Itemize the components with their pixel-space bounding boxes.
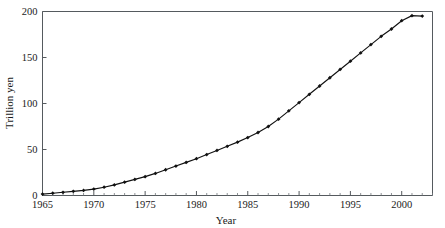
data-point [61,190,65,194]
data-point [143,175,147,179]
x-tick-label: 1975 [135,199,156,210]
y-axis-tick-labels: 050100150200 [22,6,38,201]
y-tick-label: 50 [27,144,38,155]
y-axis-ticks [43,12,47,196]
x-tick-label: 1990 [289,199,310,210]
data-point [153,172,157,176]
data-point [246,136,250,140]
data-point [420,14,424,18]
x-axis-tick-labels: 19651970197519801985199019952000 [32,199,412,210]
x-tick-label: 1980 [186,199,207,210]
x-axis-title: Year [216,214,237,226]
data-point [205,153,209,157]
data-point [123,180,127,184]
x-tick-label: 2000 [391,199,412,210]
data-point [164,168,168,172]
data-point [92,187,96,191]
x-axis-ticks [43,191,402,196]
data-point [71,189,75,193]
data-point [184,160,188,164]
data-point-markers [41,14,425,196]
x-tick-label: 1995 [340,199,361,210]
data-point [410,14,414,18]
x-tick-label: 1970 [83,199,104,210]
data-point [236,140,240,144]
data-point [195,157,199,161]
data-point [133,178,137,182]
x-tick-label: 1965 [32,199,53,210]
line-chart: 050100150200 196519701975198019851990199… [0,0,445,228]
y-tick-label: 100 [22,98,38,109]
data-point [102,185,106,189]
y-tick-label: 200 [22,6,38,17]
data-point [51,191,55,195]
data-point [225,144,229,148]
data-series [41,14,425,196]
x-tick-label: 1985 [237,199,258,210]
y-tick-label: 150 [22,52,38,63]
y-axis-title: Trillion yen [3,77,15,129]
data-point [82,189,86,193]
data-point [215,149,219,153]
data-point [112,183,116,187]
plot-frame [43,12,433,196]
data-point [174,164,178,168]
chart-figure: 050100150200 196519701975198019851990199… [0,0,445,228]
